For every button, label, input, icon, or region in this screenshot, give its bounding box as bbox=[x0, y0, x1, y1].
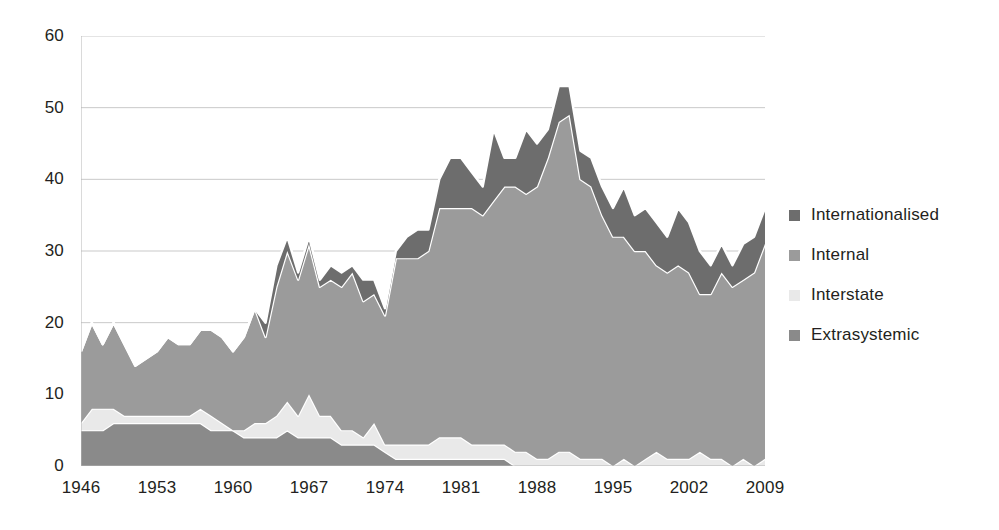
legend-label-internationalised: Internationalised bbox=[811, 205, 939, 225]
y-tick-label: 10 bbox=[18, 384, 64, 404]
y-tick-label: 20 bbox=[18, 313, 64, 333]
x-tick-label: 2002 bbox=[670, 478, 709, 498]
y-tick-label: 50 bbox=[18, 98, 64, 118]
x-tick-label: 1967 bbox=[290, 478, 329, 498]
chart-legend: Internationalised Internal Interstate Ex… bbox=[789, 195, 989, 355]
legend-label-internal: Internal bbox=[811, 245, 869, 265]
x-tick-label: 1946 bbox=[62, 478, 101, 498]
legend-swatch-extrasystemic bbox=[789, 330, 800, 341]
plot-area bbox=[81, 36, 765, 466]
legend-swatch-internationalised bbox=[789, 210, 800, 221]
x-tick-label: 1960 bbox=[214, 478, 253, 498]
x-tick-label: 1995 bbox=[594, 478, 633, 498]
legend-swatch-interstate bbox=[789, 290, 800, 301]
y-tick-label: 30 bbox=[18, 241, 64, 261]
y-tick-label: 40 bbox=[18, 169, 64, 189]
legend-swatch-internal bbox=[789, 250, 800, 261]
x-tick-label: 1981 bbox=[442, 478, 481, 498]
x-tick-label: 1953 bbox=[138, 478, 177, 498]
chart-container: 6050403020100 19461953196019671974198119… bbox=[0, 0, 999, 530]
x-tick-label: 1988 bbox=[518, 478, 557, 498]
area-internal bbox=[81, 115, 765, 466]
legend-label-interstate: Interstate bbox=[811, 285, 884, 305]
legend-item: Extrasystemic bbox=[789, 315, 989, 355]
y-tick-label: 0 bbox=[18, 456, 64, 476]
x-tick-label: 2009 bbox=[746, 478, 785, 498]
legend-item: Internationalised bbox=[789, 195, 989, 235]
legend-item: Interstate bbox=[789, 275, 989, 315]
x-axis: 1946195319601967197419811988199520022009 bbox=[81, 478, 765, 506]
stacked-area-chart bbox=[81, 36, 765, 466]
y-axis: 6050403020100 bbox=[18, 36, 64, 466]
y-tick-label: 60 bbox=[18, 26, 64, 46]
legend-label-extrasystemic: Extrasystemic bbox=[811, 325, 919, 345]
area-series-group bbox=[81, 86, 765, 466]
legend-item: Internal bbox=[789, 235, 989, 275]
x-tick-label: 1974 bbox=[366, 478, 405, 498]
